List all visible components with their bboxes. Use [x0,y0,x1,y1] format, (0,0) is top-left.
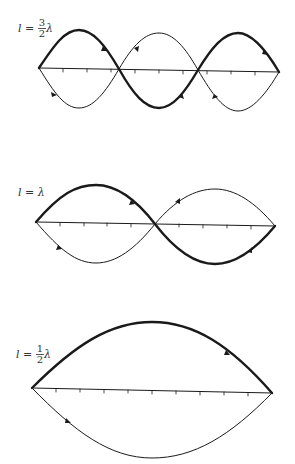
axis-ticks [63,69,255,75]
fraction: 1 2 [36,344,44,365]
current-wave-thick [32,322,272,393]
lambda-symbol: λ [38,186,45,199]
standing-wave-diagrams [0,0,295,464]
label-three-halves-lambda: l = 3 2 λ [18,18,53,39]
label-lhs: l = [16,348,32,361]
arrow-icon [248,247,252,253]
label-lhs: l = [18,186,34,199]
diagram-three-halves-lambda [39,30,279,111]
lambda-symbol: λ [46,22,53,35]
current-wave-thick [36,185,275,264]
label-one-lambda: l = λ [18,186,45,199]
diagram-one-lambda [36,185,275,264]
arrow-icon [65,418,71,423]
label-one-half-lambda: l = 1 2 λ [16,344,51,365]
fraction-denominator: 2 [38,29,46,39]
diagram-one-half-lambda [32,322,272,458]
direction-arrows [51,46,268,423]
fraction-denominator: 2 [36,355,44,365]
fraction: 3 2 [38,18,46,39]
label-lhs: l = [18,22,34,35]
lambda-symbol: λ [44,348,51,361]
